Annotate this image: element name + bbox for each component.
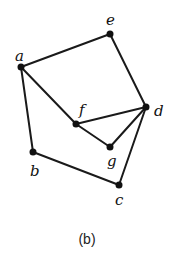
edge-f-d	[76, 107, 146, 124]
edge-a-e	[21, 34, 110, 67]
graph-diagram: aedfgbc (b)	[0, 0, 175, 256]
node-label-a: a	[15, 47, 24, 65]
edge-e-d	[110, 34, 146, 107]
node-label-e: e	[106, 11, 115, 29]
edge-a-b	[21, 67, 33, 152]
edge-a-f	[21, 67, 76, 124]
edge-f-g	[76, 124, 110, 147]
edge-d-c	[119, 107, 146, 185]
node-c	[116, 182, 123, 189]
edge-g-d	[110, 107, 146, 147]
node-g	[107, 144, 114, 151]
node-label-f: f	[78, 101, 87, 119]
node-d	[143, 104, 150, 111]
figure-caption: (b)	[78, 231, 95, 247]
node-label-b: b	[30, 162, 40, 180]
node-f	[73, 121, 80, 128]
node-b	[30, 149, 37, 156]
node-label-d: d	[154, 102, 164, 120]
node-e	[107, 31, 114, 38]
node-label-g: g	[107, 152, 117, 170]
node-label-c: c	[115, 191, 124, 209]
